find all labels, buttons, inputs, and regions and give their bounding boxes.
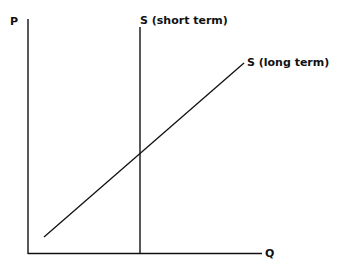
long-term-supply-curve: [44, 63, 244, 237]
quantity-axis-label: Q: [265, 248, 274, 259]
long-term-supply-label: S (long term): [247, 57, 329, 68]
short-term-supply-label: S (short term): [140, 15, 228, 26]
price-axis-label: P: [10, 16, 18, 27]
supply-diagram: [0, 0, 353, 268]
